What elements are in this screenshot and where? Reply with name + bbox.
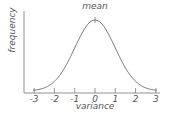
x-ticks (34, 88, 156, 93)
x-tick-label: 2 (133, 95, 139, 104)
mean-annotation: mean (82, 2, 108, 11)
normal-curve (33, 20, 157, 90)
x-tick-label: -3 (30, 95, 39, 104)
x-tick-label: 3 (153, 95, 159, 104)
y-axis-label: frequency (8, 7, 17, 52)
x-axis-label: variance (76, 102, 115, 111)
x-tick-label: -2 (50, 95, 59, 104)
